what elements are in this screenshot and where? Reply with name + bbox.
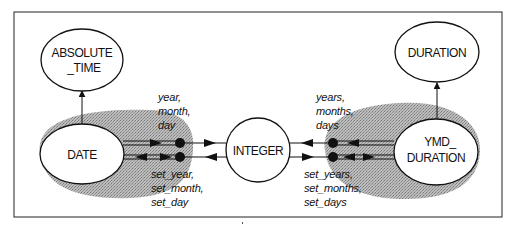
- node-duration[interactable]: DURATION: [395, 22, 479, 82]
- ymd-getter-days: days: [316, 119, 339, 131]
- node-absolute-time-label-line2: _TIME: [66, 61, 101, 75]
- node-date[interactable]: DATE: [40, 124, 124, 184]
- ymd-getter-months: months,: [316, 105, 354, 117]
- ymd-setter-dot: [328, 152, 338, 162]
- date-getter-day: day: [158, 119, 177, 131]
- date-setter-dot: [175, 152, 185, 162]
- date-setter-month: set_month,: [151, 182, 203, 194]
- node-ymd-duration-label-line2: DURATION: [407, 151, 466, 165]
- date-getter-year: year,: [157, 91, 181, 103]
- date-getter-dot: [175, 138, 185, 148]
- class-diagram: ABSOLUTE _TIME DURATION DATE INTEGER YMD…: [0, 0, 514, 227]
- ymd-getter-dot: [328, 138, 338, 148]
- node-integer-label: INTEGER: [233, 144, 284, 158]
- node-integer[interactable]: INTEGER: [226, 118, 290, 182]
- node-absolute-time[interactable]: ABSOLUTE _TIME: [41, 29, 123, 91]
- node-absolute-time-label-line1: ABSOLUTE: [52, 46, 113, 60]
- ymd-setter-days: set_days: [304, 196, 347, 208]
- date-setter-day: set_day: [151, 196, 190, 208]
- scan-speck: [242, 222, 243, 224]
- date-setter-year: set_year,: [151, 168, 194, 180]
- date-getter-month: month,: [158, 105, 190, 117]
- node-duration-label: DURATION: [408, 46, 467, 60]
- node-date-label: DATE: [67, 148, 97, 162]
- ymd-setter-months: set_months,: [304, 182, 362, 194]
- node-ymd-duration[interactable]: YMD_ DURATION: [394, 119, 478, 185]
- ymd-getter-years: years,: [315, 91, 345, 103]
- node-ymd-duration-label-line1: YMD_: [424, 135, 456, 149]
- ymd-setter-years: set_years,: [304, 168, 353, 180]
